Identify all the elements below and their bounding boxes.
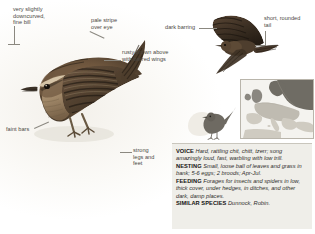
info-nesting: NESTING Small, loose ball of leaves and … [176, 163, 308, 178]
field-guide-plate: very slightly downcurved, fine bill pale… [0, 0, 315, 234]
annotation-tail: short, rounded tail [264, 15, 300, 28]
annotation-upperparts: rusty-brown above with barred wings [122, 49, 168, 62]
annotation-faint-bars: faint bars [6, 126, 29, 133]
europe-range-map [240, 79, 314, 139]
info-similar-species: SIMILAR SPECIES Dunnock, Robin. [176, 200, 308, 207]
info-voice: VOICE Hard, rattling chit, chitt, tzerr;… [176, 148, 308, 163]
leader-line-barring [199, 28, 217, 29]
leader-line-bill-foot [8, 44, 20, 45]
eye-marking [44, 84, 50, 89]
page-bottom-margin [0, 229, 315, 234]
wren-perched-silhouette [186, 104, 238, 140]
annotation-barring: dark barring [165, 24, 195, 31]
leader-line-bill [14, 26, 15, 44]
leader-line-upperparts [104, 60, 121, 61]
leader-line-tail [265, 31, 266, 45]
info-voice-heading: VOICE [176, 148, 194, 154]
info-feeding-heading: FEEDING [176, 178, 202, 184]
annotation-legs-feet: strong legs and feet [133, 147, 154, 167]
info-nesting-heading: NESTING [176, 163, 202, 169]
info-feeding: FEEDING Forages for insects and spiders … [176, 178, 308, 200]
annotation-eyestripe: pale stripe over eye [91, 17, 117, 30]
species-info-panel: VOICE Hard, rattling chit, chitt, tzerr;… [172, 143, 312, 231]
leader-line-legs-feet [120, 152, 132, 153]
info-similar-species-heading: SIMILAR SPECIES [176, 200, 226, 206]
leader-line-tail-foot [255, 45, 266, 46]
annotation-bill: very slightly downcurved, fine bill [13, 6, 45, 26]
info-similar-species-body: Dunnock, Robin. [228, 200, 270, 206]
